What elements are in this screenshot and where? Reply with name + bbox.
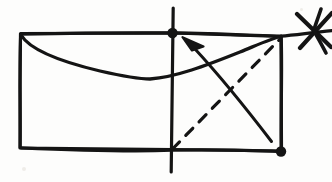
curved-crease-line [21,36,281,58]
vertex-dot-top [167,28,177,38]
vertex-dot-bottom-right [276,147,286,157]
figure-canvas [0,0,332,182]
sketch-page [0,0,332,182]
top-edge-extension [281,31,332,36]
